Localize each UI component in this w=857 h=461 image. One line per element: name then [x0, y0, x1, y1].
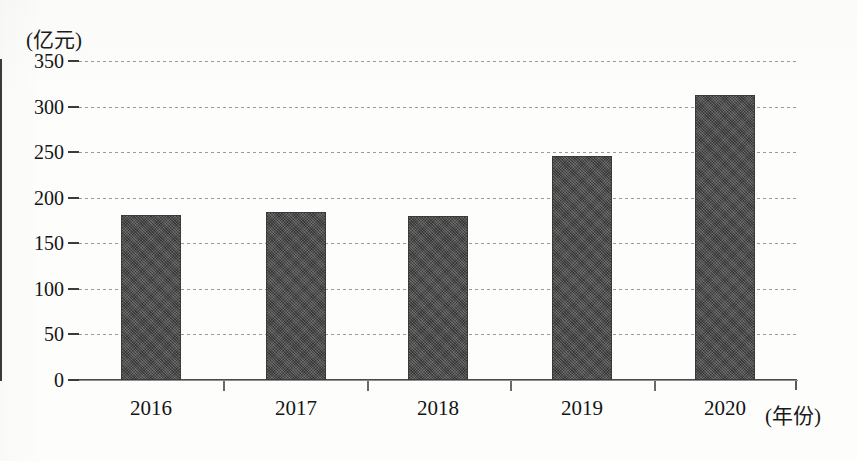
gridline-250	[79, 152, 798, 153]
x-category-label-2020: 2020	[704, 398, 746, 419]
bar-2018	[408, 216, 468, 380]
bar-2019	[552, 156, 612, 380]
x-tick-1	[223, 381, 225, 391]
y-tick-label-50: 50	[44, 324, 64, 344]
x-category-label-2019: 2019	[561, 398, 603, 419]
y-tick-250	[68, 151, 79, 153]
x-category-label-2017: 2017	[275, 398, 317, 419]
x-tick-2	[367, 381, 369, 391]
y-tick-150	[68, 242, 79, 244]
y-tick-label-100: 100	[34, 279, 64, 299]
gridline-0	[79, 380, 798, 381]
y-tick-0	[68, 379, 79, 381]
bar-chart-figure: (亿元) (年份) 050100150200250300350 20162017…	[0, 0, 857, 461]
x-category-label-2016: 2016	[130, 398, 172, 419]
bar-2016	[121, 215, 181, 380]
x-category-label-2018: 2018	[417, 398, 459, 419]
x-tick-4	[654, 381, 656, 391]
y-tick-300	[68, 106, 79, 108]
y-tick-label-350: 350	[34, 51, 64, 71]
y-tick-350	[68, 60, 79, 62]
plot-area	[79, 61, 798, 380]
bar-2017	[266, 212, 326, 380]
y-tick-label-150: 150	[34, 233, 64, 253]
y-axis: 050100150200250300350	[0, 0, 79, 461]
y-tick-label-300: 300	[34, 97, 64, 117]
gridline-350	[79, 61, 798, 62]
bar-2020	[695, 95, 755, 380]
y-tick-label-0: 0	[54, 370, 64, 390]
y-tick-100	[68, 288, 79, 290]
y-tick-200	[68, 197, 79, 199]
y-tick-label-200: 200	[34, 188, 64, 208]
y-tick-label-250: 250	[34, 142, 64, 162]
gridline-300	[79, 107, 798, 108]
gridline-200	[79, 198, 798, 199]
y-tick-50	[68, 333, 79, 335]
x-tick-3	[510, 381, 512, 391]
x-axis-unit-label: (年份)	[765, 399, 821, 429]
